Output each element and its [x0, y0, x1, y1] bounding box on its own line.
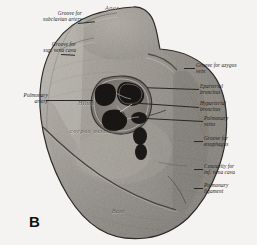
- leader-concavity-inf-vena-cava: [194, 169, 203, 170]
- leader-pulmonary-artery: [46, 100, 93, 101]
- callout-concavity-inf-vena-cava: Concavity for inf. vena cava: [204, 163, 257, 175]
- in-image-label-base: Base: [112, 208, 125, 214]
- callout-pulmonary-artery: Pulmonary artery: [1, 92, 48, 104]
- callout-groove-subclavian-artery: Groove for subclavian artery: [8, 10, 82, 22]
- callout-pulmonary-ligament: Pulmonary ligament: [204, 182, 256, 194]
- in-image-label-corpus-vertebrae: corpus osseum: [70, 128, 116, 134]
- callout-groove-oesophagus: Groove for œsophagus: [204, 135, 256, 147]
- lung-mediastinal-surface-figure: Apex Hilum corpus osseum Base Groove for…: [0, 0, 257, 245]
- callout-hyparterial-bronchus: Hyparterial bronchus: [200, 100, 256, 112]
- callout-pulmonary-veins: Pulmonary veins: [204, 115, 256, 127]
- callout-eparterial-bronchus: Eparterial bronchus: [200, 83, 255, 95]
- leader-groove-oesophagus: [194, 141, 203, 142]
- panel-marker-b: B: [29, 213, 40, 230]
- callout-groove-sup-vena-cava: Groove for sup. vena cava: [8, 41, 76, 53]
- leader-pulmonary-ligament: [194, 188, 203, 189]
- callout-groove-azygos-vein: Groove for azygos vein: [196, 62, 256, 74]
- in-image-label-apex: Apex: [105, 4, 120, 11]
- leader-groove-azygos-vein: [184, 68, 195, 69]
